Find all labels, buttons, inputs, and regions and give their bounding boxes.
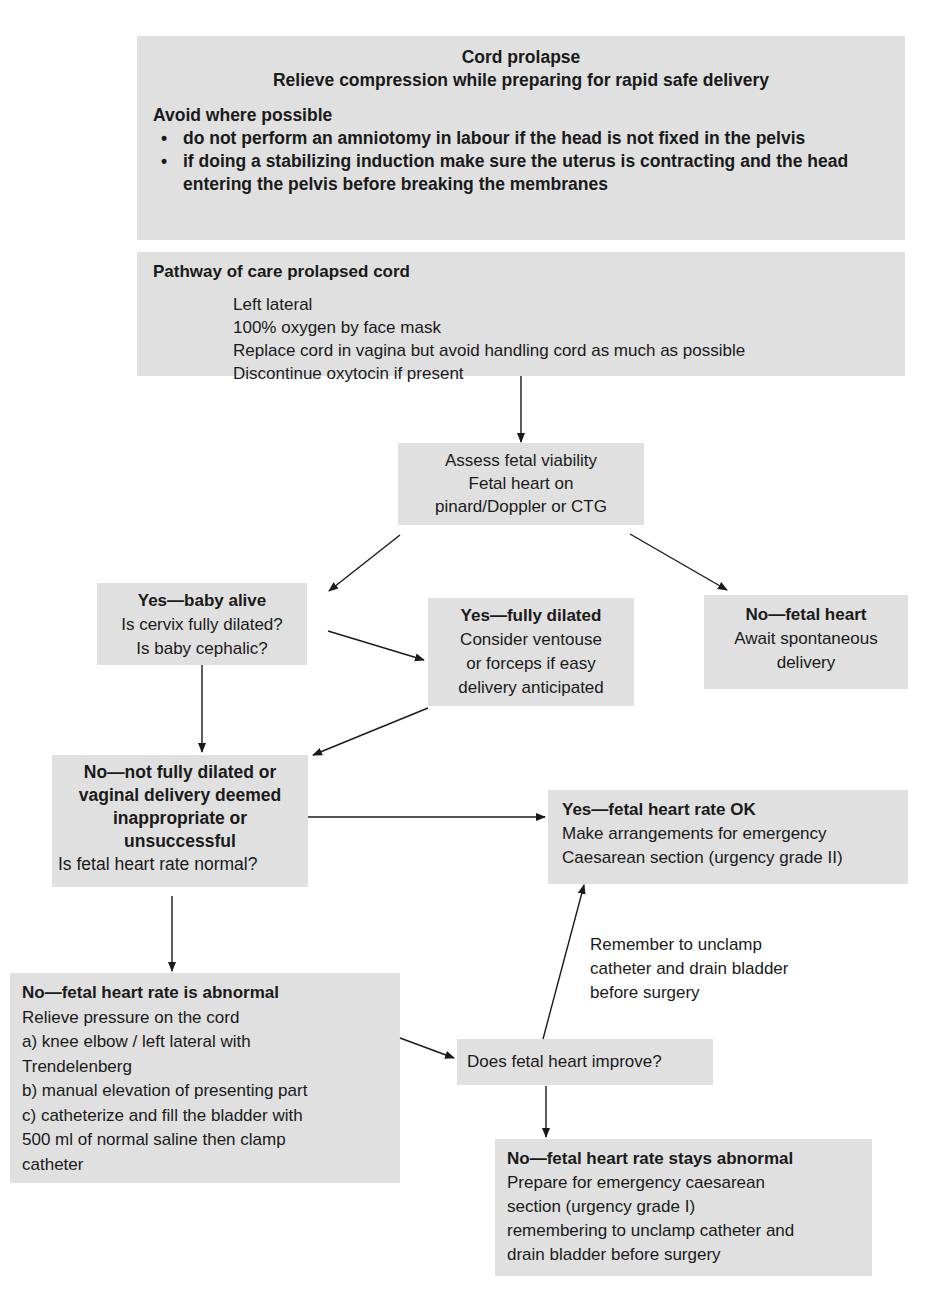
fully-dilated-line: Consider ventouse: [432, 628, 630, 652]
arrow-baby-alive-to-dilated: [328, 631, 424, 660]
heart-ok-line: Caesarean section (urgency grade II): [562, 846, 894, 870]
pathway-step: 100% oxygen by face mask: [233, 316, 889, 339]
no-fetal-heart-line: delivery: [708, 651, 904, 675]
does-heart-improve-box: Does fetal heart improve?: [457, 1039, 713, 1085]
assess-line: Assess fetal viability: [402, 449, 640, 472]
arrow-assess-to-baby-alive: [329, 535, 400, 591]
baby-alive-line: Is baby cephalic?: [101, 637, 303, 661]
reminder-line: Remember to unclamp: [590, 933, 788, 957]
avoid-bullet: if doing a stabilizing induction make su…: [161, 150, 889, 196]
fully-dilated-line: delivery anticipated: [432, 676, 630, 700]
abnormal-line: c) catheterize and fill the bladder with: [22, 1104, 388, 1129]
assess-line: pinard/Doppler or CTG: [402, 495, 640, 518]
stays-abnormal-box: No—fetal heart rate stays abnormal Prepa…: [495, 1139, 872, 1276]
assess-viability-box: Assess fetal viability Fetal heart on pi…: [398, 443, 644, 525]
abnormal-line: b) manual elevation of presenting part: [22, 1079, 388, 1104]
heart-ok-heading: Yes—fetal heart rate OK: [562, 798, 894, 822]
heart-rate-ok-box: Yes—fetal heart rate OK Make arrangement…: [548, 790, 908, 884]
arrow-dilated-to-not-dilated: [313, 708, 428, 755]
abnormal-line: Trendelenberg: [22, 1055, 388, 1080]
baby-alive-heading: Yes—baby alive: [101, 589, 303, 613]
stays-abnormal-line: remembering to unclamp catheter and: [507, 1219, 860, 1243]
abnormal-line: a) knee elbow / left lateral with: [22, 1030, 388, 1055]
stays-abnormal-heading: No—fetal heart rate stays abnormal: [507, 1147, 860, 1171]
not-dilated-heading: vaginal delivery deemed: [56, 784, 304, 807]
arrow-assess-to-no-heart: [630, 534, 727, 590]
abnormal-heart-rate-box: No—fetal heart rate is abnormal Relieve …: [10, 973, 400, 1183]
reminder-line: before surgery: [590, 981, 788, 1005]
abnormal-line: Relieve pressure on the cord: [22, 1006, 388, 1031]
no-fetal-heart-line: Await spontaneous: [708, 627, 904, 651]
stays-abnormal-line: section (urgency grade I): [507, 1195, 860, 1219]
fully-dilated-heading: Yes—fully dilated: [432, 604, 630, 628]
no-fetal-heart-heading: No—fetal heart: [708, 603, 904, 627]
avoid-bullet: do not perform an amniotomy in labour if…: [161, 127, 889, 150]
pathway-heading: Pathway of care prolapsed cord: [153, 260, 889, 283]
improve-text: Does fetal heart improve?: [467, 1050, 703, 1074]
not-dilated-heading: inappropriate or: [56, 807, 304, 830]
heart-ok-line: Make arrangements for emergency: [562, 822, 894, 846]
abnormal-line: 500 ml of normal saline then clamp: [22, 1128, 388, 1153]
baby-alive-box: Yes—baby alive Is cervix fully dilated? …: [97, 583, 307, 665]
not-fully-dilated-box: No—not fully dilated or vaginal delivery…: [52, 755, 308, 887]
fully-dilated-line: or forceps if easy: [432, 652, 630, 676]
not-dilated-heading: No—not fully dilated or: [56, 761, 304, 784]
arrow-improve-to-heart-ok: [543, 885, 584, 1039]
stays-abnormal-line: Prepare for emergency caesarean: [507, 1171, 860, 1195]
pathway-step: Replace cord in vagina but avoid handlin…: [233, 339, 889, 362]
abnormal-line: catheter: [22, 1153, 388, 1178]
pathway-box: Pathway of care prolapsed cord Left late…: [137, 252, 905, 376]
baby-alive-line: Is cervix fully dilated?: [101, 613, 303, 637]
header-box: Cord prolapse Relieve compression while …: [137, 36, 905, 240]
no-fetal-heart-box: No—fetal heart Await spontaneous deliver…: [704, 595, 908, 689]
header-subtitle: Relieve compression while preparing for …: [153, 69, 889, 92]
avoid-list: do not perform an amniotomy in labour if…: [153, 127, 889, 196]
avoid-heading: Avoid where possible: [153, 104, 889, 127]
assess-line: Fetal heart on: [402, 472, 640, 495]
reminder-line: catheter and drain bladder: [590, 957, 788, 981]
stays-abnormal-line: drain bladder before surgery: [507, 1243, 860, 1267]
pathway-step: Left lateral: [233, 293, 889, 316]
not-dilated-heading: unsuccessful: [56, 830, 304, 853]
reminder-note: Remember to unclamp catheter and drain b…: [590, 933, 788, 1005]
fully-dilated-box: Yes—fully dilated Consider ventouse or f…: [428, 598, 634, 706]
pathway-step: Discontinue oxytocin if present: [233, 362, 889, 385]
arrow-abnormal-to-improve: [400, 1038, 454, 1058]
abnormal-heading: No—fetal heart rate is abnormal: [22, 981, 388, 1006]
not-dilated-question: Is fetal heart rate normal?: [56, 853, 304, 876]
header-title: Cord prolapse: [153, 46, 889, 69]
